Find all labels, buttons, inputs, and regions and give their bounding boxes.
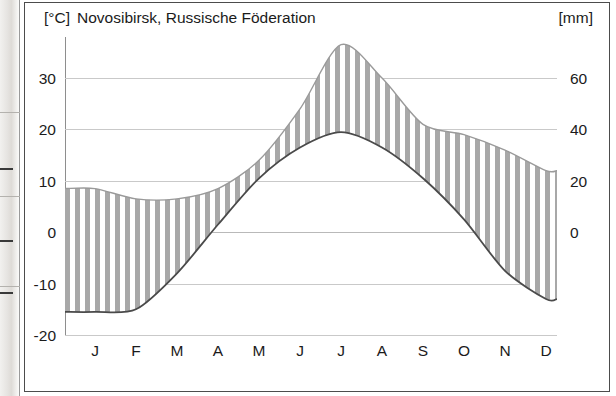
precipitation-band xyxy=(65,44,557,312)
xtick-feb: F xyxy=(131,343,140,359)
xtick-aug: A xyxy=(377,343,387,359)
gridline-m20 xyxy=(65,335,557,336)
xtick-apr: A xyxy=(213,343,223,359)
ytick-left-10: 10 xyxy=(39,174,56,190)
climate-curves xyxy=(65,37,557,335)
xtick-oct: O xyxy=(458,343,470,359)
ytick-left-m10: -10 xyxy=(34,277,56,293)
xtick-jun: J xyxy=(296,343,304,359)
xtick-may: M xyxy=(253,343,266,359)
ytick-left-20: 20 xyxy=(39,122,56,138)
xtick-dec: D xyxy=(540,343,551,359)
page-edge-strip xyxy=(0,0,20,396)
climate-chart-card: [°C] Novosibirsk, Russische Föderation [… xyxy=(24,2,610,392)
ytick-right-60: 60 xyxy=(570,71,587,87)
xtick-jan: J xyxy=(91,343,99,359)
xtick-mar: M xyxy=(171,343,184,359)
ytick-left-m20: -20 xyxy=(34,328,56,344)
xtick-nov: N xyxy=(499,343,510,359)
page-title: Novosibirsk, Russische Föderation xyxy=(77,10,316,26)
right-axis-unit: [mm] xyxy=(559,10,593,26)
ytick-right-40: 40 xyxy=(570,122,587,138)
ytick-right-20: 20 xyxy=(570,174,587,190)
plot-area: 30 20 10 0 -10 -20 60 40 20 0 J F M A M … xyxy=(65,37,557,335)
ytick-left-0: 0 xyxy=(47,225,56,241)
left-axis-unit: [°C] xyxy=(44,10,70,26)
ytick-left-30: 30 xyxy=(39,71,56,87)
xtick-jul: J xyxy=(337,343,345,359)
xtick-sep: S xyxy=(418,343,428,359)
ytick-right-0: 0 xyxy=(570,225,579,241)
